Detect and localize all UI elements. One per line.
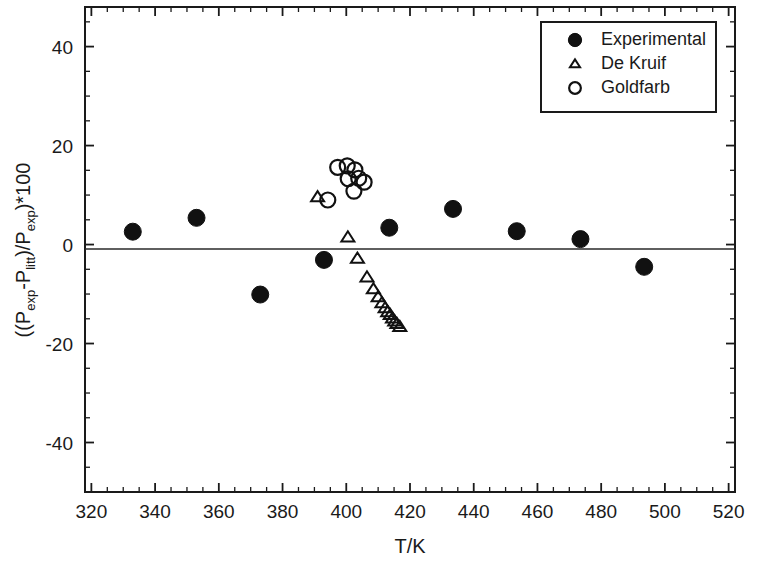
x-tick-label: 440 [458, 501, 490, 522]
x-tick-label: 480 [585, 501, 617, 522]
x-tick-label: 360 [203, 501, 235, 522]
scatter-plot: 320340360380400420440460480500520 -40-20… [0, 0, 759, 567]
data-point [508, 223, 525, 240]
data-point [445, 200, 462, 217]
legend-label: Experimental [601, 29, 706, 49]
x-tick-label: 460 [522, 501, 554, 522]
y-tick-label: -20 [46, 334, 73, 355]
x-tick-label: 520 [713, 501, 745, 522]
data-point [124, 223, 141, 240]
y-tick-label: 20 [52, 136, 73, 157]
chart-legend: ExperimentalDe KruifGoldfarb [541, 22, 716, 112]
x-tick-label: 380 [267, 501, 299, 522]
data-point [315, 251, 332, 268]
x-tick-label: 400 [330, 501, 362, 522]
data-point [381, 219, 398, 236]
legend-label: Goldfarb [601, 77, 670, 97]
legend-marker-filled-circle [568, 33, 581, 46]
x-axis-title: T/K [394, 535, 426, 557]
data-point [572, 231, 589, 248]
x-tick-label: 340 [139, 501, 171, 522]
data-point [636, 258, 653, 275]
x-tick-label: 320 [76, 501, 108, 522]
y-tick-label: 0 [62, 235, 73, 256]
data-point [188, 209, 205, 226]
legend-label: De Kruif [601, 53, 667, 73]
x-tick-label: 500 [649, 501, 681, 522]
y-tick-label: -40 [46, 433, 73, 454]
y-tick-label: 40 [52, 37, 73, 58]
x-tick-label: 420 [394, 501, 426, 522]
data-point [252, 286, 269, 303]
chart-figure: 320340360380400420440460480500520 -40-20… [0, 0, 759, 567]
